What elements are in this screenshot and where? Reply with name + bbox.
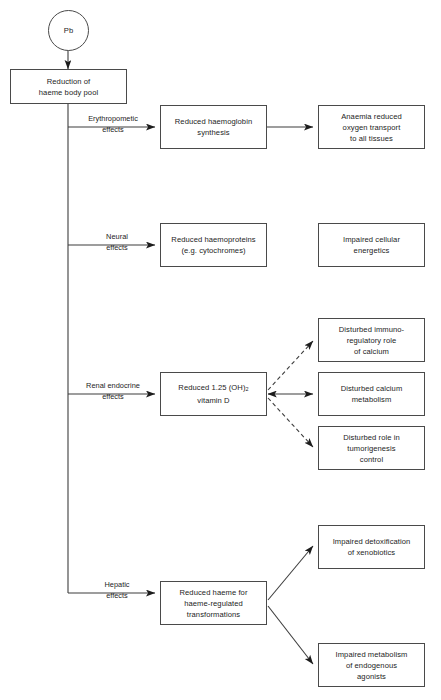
edge-label-erythropometic-line1: Erythropometic [77,113,149,124]
edge-label-renal-endocrine: Renal endocrine effects [73,380,153,403]
node-tumorigenesis-line2: tumorigenesis [347,444,395,453]
node-disturbed-role-tumorigenesis: Disturbed role in tumorigenesis control [318,426,425,470]
node-vitamin-d-line2: vitamin D [197,396,229,405]
node-root-haeme-body-pool: Reduction of haeme body pool [10,69,127,104]
edge-label-hepatic-line1: Hepatic [91,579,143,590]
node-anaemia-line3: to all tissues [350,134,393,143]
node-disturbed-immuno-regulatory-role: Disturbed immuno- regulatory role of cal… [318,318,425,362]
node-impaired-metabolism-endogenous-agonists: Impaired metabolism of endogenous agonis… [318,643,425,687]
node-source-pb-label: Pb [64,26,73,35]
node-reduced-haeme-transformations: Reduced haeme for haeme-regulated transf… [160,581,267,625]
node-anaemia-line2: oxygen transport [343,123,401,132]
node-cellular-energetics-line1: Impaired cellular [343,235,400,244]
node-reduced-haemoglobin-synthesis: Reduced haemoglobin synthesis [160,105,267,149]
node-calcium-line2: metabolism [352,395,392,404]
node-impaired-detoxification-xenobiotics: Impaired detoxification of xenobiotics [318,525,425,569]
node-haemoglobin-line1: Reduced haemoglobin [175,117,252,126]
node-immuno-line1: Disturbed immuno- [339,325,404,334]
node-impaired-cellular-energetics: Impaired cellular energetics [318,223,425,267]
figure-canvas: Pb Reduction of haeme body pool Erythrop… [0,0,441,700]
edge-haeme-to-endogenous [268,606,313,664]
node-disturbed-calcium-metabolism: Disturbed calcium metabolism [318,372,425,416]
node-cellular-energetics-line2: energetics [354,246,390,255]
node-reduced-haemoproteins: Reduced haemoproteins (e.g. cytochromes) [160,223,267,267]
edge-label-neural-line1: Neural [90,231,144,242]
edge-label-hepatic-line2: effects [91,590,143,601]
node-immuno-line2: regulatory role [347,336,397,345]
node-immuno-line3: of calcium [354,347,389,356]
edge-label-renal-endocrine-line2: effects [73,391,153,402]
node-haeme-line3: transformations [187,610,240,619]
node-haeme-line2: haeme-regulated [184,599,243,608]
node-reduced-vitamin-d: Reduced 1.25 (OH)2 vitamin D [160,372,267,416]
node-endogenous-line1: Impaired metabolism [336,650,408,659]
node-haemoproteins-line1: Reduced haemoproteins [171,235,255,244]
node-tumorigenesis-line1: Disturbed role in [343,433,400,442]
node-tumorigenesis-line3: control [360,455,383,464]
node-vitamin-d-line1: Reduced 1.25 (OH)2 [178,383,248,392]
edge-label-erythropometic: Erythropometic effects [77,113,149,136]
edge-vitd-to-tumorigenesis [268,398,313,447]
edge-label-neural: Neural effects [90,231,144,254]
edge-label-renal-endocrine-line1: Renal endocrine [73,380,153,391]
node-anaemia-reduced-oxygen-transport: Anaemia reduced oxygen transport to all … [318,105,425,149]
node-root-line1: Reduction of [47,77,91,86]
node-anaemia-line1: Anaemia reduced [341,112,402,121]
node-detox-line1: Impaired detoxification [333,537,411,546]
node-endogenous-line2: of endogenous [346,661,397,670]
node-detox-line2: of xenobiotics [348,548,396,557]
edge-haeme-to-detox [268,546,313,600]
node-source-pb: Pb [48,10,89,51]
node-root-line2: haeme body pool [39,88,98,97]
node-haemoglobin-line2: synthesis [197,128,229,137]
node-haeme-line1: Reduced haeme for [180,588,248,597]
node-haemoproteins-line2: (e.g. cytochromes) [181,246,245,255]
edge-label-neural-line2: effects [90,242,144,253]
edge-label-erythropometic-line2: effects [77,124,149,135]
node-calcium-line1: Disturbed calcium [341,384,403,393]
edge-vitd-to-immuno [268,341,313,390]
node-endogenous-line3: agonists [357,672,386,681]
edge-label-hepatic: Hepatic effects [91,579,143,602]
